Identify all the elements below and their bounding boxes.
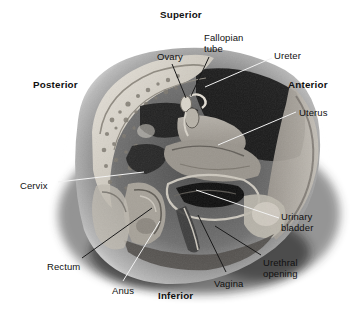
structure-label-rectum: Rectum [47, 262, 80, 273]
anatomy-figure-page: SuperiorInferiorPosteriorAnterior OvaryF… [0, 0, 359, 319]
structure-label-cervix: Cervix [20, 181, 48, 192]
orientation-label-inferior: Inferior [158, 291, 193, 302]
structure-label-ureter: Ureter [274, 51, 301, 62]
structure-label-anus: Anus [112, 286, 134, 297]
structure-label-vagina: Vagina [214, 279, 243, 290]
structure-label-urinary-bladder: Urinary bladder [281, 212, 313, 233]
structure-label-ovary: Ovary [157, 52, 183, 63]
orientation-label-superior: Superior [160, 10, 202, 21]
structure-label-fallopian-tube: Fallopian tube [204, 33, 243, 54]
structure-label-uterus: Uterus [299, 108, 328, 119]
orientation-label-anterior: Anterior [288, 80, 328, 91]
orientation-label-posterior: Posterior [33, 80, 78, 91]
structure-label-urethral-opening: Urethral opening [263, 258, 298, 279]
